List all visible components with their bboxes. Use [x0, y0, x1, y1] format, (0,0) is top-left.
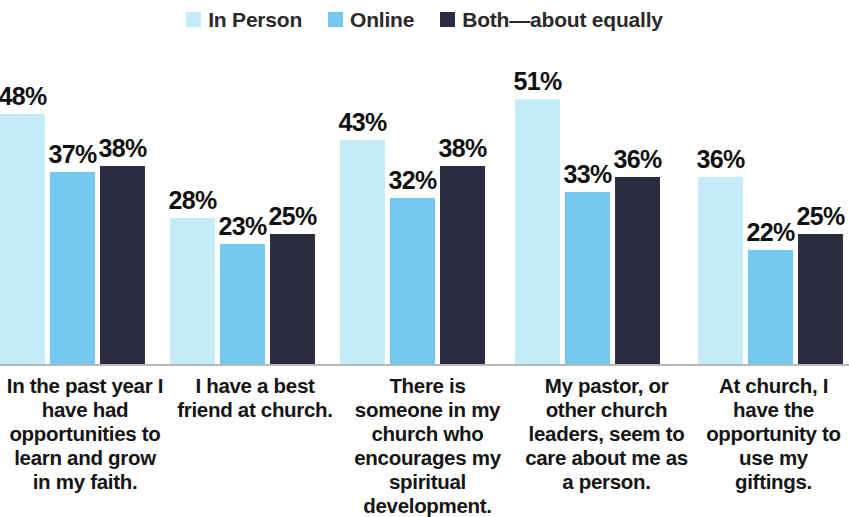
- bar-4-0[interactable]: [698, 177, 743, 364]
- category-label-1: I have a best friend at church.: [170, 374, 340, 422]
- bar-0-0[interactable]: [0, 114, 45, 364]
- chart-plot-area: 48%37%38%28%23%25%43%32%38%51%33%36%36%2…: [0, 34, 849, 366]
- legend-label-1: Online: [350, 9, 414, 30]
- bar-2-1[interactable]: [390, 198, 435, 364]
- bar-0-2[interactable]: [100, 166, 145, 364]
- bar-value-label-1-1: 23%: [218, 214, 266, 239]
- category-label-3: My pastor, or other church leaders, seem…: [515, 374, 698, 494]
- bar-value-label-0-1: 37%: [48, 142, 96, 167]
- bar-value-label-3-1: 33%: [563, 162, 611, 187]
- bar-3-2[interactable]: [615, 177, 660, 364]
- bar-slot-3-2[interactable]: 36%: [615, 34, 660, 364]
- bar-value-label-2-0: 43%: [338, 110, 386, 135]
- bar-slot-2-1[interactable]: 32%: [390, 34, 435, 364]
- bar-slot-0-0[interactable]: 48%: [0, 34, 45, 364]
- bar-3-0[interactable]: [515, 99, 560, 364]
- bar-slot-4-1[interactable]: 22%: [748, 34, 793, 364]
- bar-value-label-0-0: 48%: [0, 84, 47, 109]
- bar-0-1[interactable]: [50, 172, 95, 364]
- bar-2-2[interactable]: [440, 166, 485, 364]
- bar-slot-0-2[interactable]: 38%: [100, 34, 145, 364]
- legend-item-2[interactable]: Both—about equally: [440, 9, 663, 30]
- category-label-0: In the past year I have had opportunitie…: [0, 374, 170, 494]
- bar-slot-4-0[interactable]: 36%: [698, 34, 743, 364]
- bar-value-label-2-1: 32%: [388, 168, 436, 193]
- bar-4-2[interactable]: [798, 234, 843, 364]
- bar-4-1[interactable]: [748, 250, 793, 364]
- bar-value-label-4-2: 25%: [796, 204, 844, 229]
- bar-1-1[interactable]: [220, 244, 265, 364]
- bar-value-label-4-1: 22%: [746, 220, 794, 245]
- bar-value-label-3-0: 51%: [513, 69, 561, 94]
- legend-label-2: Both—about equally: [462, 9, 663, 30]
- bar-group-0: 48%37%38%: [0, 34, 170, 364]
- bar-slot-2-0[interactable]: 43%: [340, 34, 385, 364]
- legend-item-1[interactable]: Online: [328, 9, 414, 30]
- bar-value-label-0-2: 38%: [98, 136, 146, 161]
- legend-swatch-icon-1: [328, 12, 343, 27]
- bar-slot-1-0[interactable]: 28%: [170, 34, 215, 364]
- bar-value-label-1-0: 28%: [168, 188, 216, 213]
- bar-group-1: 28%23%25%: [170, 34, 340, 364]
- bar-slot-0-1[interactable]: 37%: [50, 34, 95, 364]
- bar-2-0[interactable]: [340, 140, 385, 364]
- bar-3-1[interactable]: [565, 192, 610, 364]
- bar-slot-3-1[interactable]: 33%: [565, 34, 610, 364]
- bar-slot-2-2[interactable]: 38%: [440, 34, 485, 364]
- category-label-2: There is someone in my church who encour…: [340, 374, 515, 517]
- bar-slot-3-0[interactable]: 51%: [515, 34, 560, 364]
- legend-item-0[interactable]: In Person: [186, 9, 302, 30]
- bar-group-3: 51%33%36%: [515, 34, 698, 364]
- legend-swatch-icon-2: [440, 12, 455, 27]
- bar-group-2: 43%32%38%: [340, 34, 515, 364]
- bar-groups: 48%37%38%28%23%25%43%32%38%51%33%36%36%2…: [0, 34, 849, 364]
- category-axis-labels: In the past year I have had opportunitie…: [0, 366, 849, 517]
- bar-slot-1-2[interactable]: 25%: [270, 34, 315, 364]
- bar-value-label-4-0: 36%: [696, 147, 744, 172]
- legend-swatch-icon-0: [186, 12, 201, 27]
- bar-slot-4-2[interactable]: 25%: [798, 34, 843, 364]
- bar-slot-1-1[interactable]: 23%: [220, 34, 265, 364]
- chart-legend: In PersonOnlineBoth—about equally: [0, 0, 849, 34]
- bar-group-4: 36%22%25%: [698, 34, 849, 364]
- legend-label-0: In Person: [208, 9, 302, 30]
- bar-1-2[interactable]: [270, 234, 315, 364]
- bar-value-label-2-2: 38%: [438, 136, 486, 161]
- bar-1-0[interactable]: [170, 218, 215, 364]
- bar-value-label-3-2: 36%: [613, 147, 661, 172]
- bar-value-label-1-2: 25%: [268, 204, 316, 229]
- category-label-4: At church, I have the opportunity to use…: [698, 374, 849, 494]
